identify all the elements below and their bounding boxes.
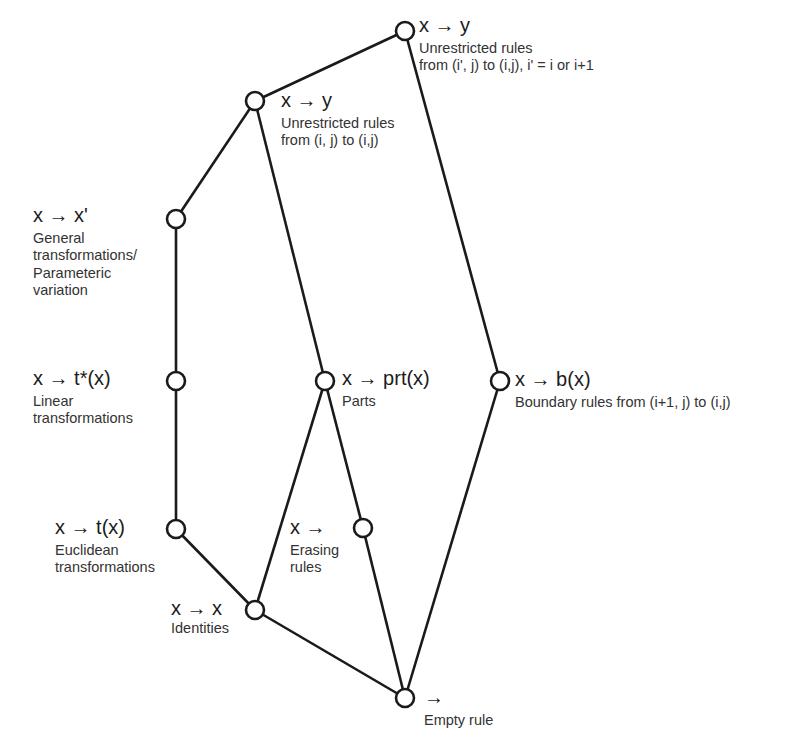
node-general [167, 210, 185, 228]
rule-formula: x → [290, 516, 339, 539]
node-erasing [354, 519, 372, 537]
label-boundary: x → b(x)Boundary rules from (i+1, j) to … [515, 368, 731, 411]
node-empty [396, 689, 414, 707]
rule-formula: x → t*(x) [33, 367, 133, 390]
edge-empty-to-identities [255, 610, 405, 698]
rule-description: from (i', j) to (i,j), i' = i or i+1 [419, 57, 594, 74]
rule-formula: x → t(x) [55, 516, 155, 539]
node-unrestricted [246, 92, 264, 110]
rule-formula: x → y [419, 14, 594, 37]
rule-description: Unrestricted rules [419, 40, 594, 57]
node-identities [246, 601, 264, 619]
label-linear: x → t*(x)Lineartransformations [33, 367, 133, 428]
label-euclidean: x → t(x)Euclideantransformations [55, 516, 155, 577]
rule-formula: x → x' [33, 204, 137, 227]
node-parts [316, 372, 334, 390]
rule-description: Parts [342, 393, 430, 410]
rule-description: General [33, 230, 137, 247]
rule-description: variation [33, 282, 137, 299]
rule-description: Boundary rules from (i+1, j) to (i,j) [515, 394, 731, 411]
label-unrestricted-shift: x → yUnrestricted rulesfrom (i', j) to (… [419, 14, 594, 75]
label-parts: x → prt(x)Parts [342, 367, 430, 410]
label-unrestricted: x → yUnrestricted rulesfrom (i, j) to (i… [281, 89, 395, 150]
rule-description: rules [290, 559, 339, 576]
label-general: x → x'Generaltransformations/Parameteric… [33, 204, 137, 300]
label-erasing: x →Erasingrules [290, 516, 339, 577]
rule-description: transformations [33, 410, 133, 427]
rule-description: Linear [33, 393, 133, 410]
label-identities: x → xIdentities [171, 597, 229, 637]
node-linear [167, 372, 185, 390]
rule-description: Euclidean [55, 542, 155, 559]
rule-description: from (i, j) to (i,j) [281, 132, 395, 149]
rule-description: Erasing [290, 542, 339, 559]
rule-description: Empty rule [424, 712, 493, 729]
edge-general-to-unrestricted [176, 101, 255, 219]
edge-boundary-to-unrestricted-shift [405, 31, 500, 381]
rule-description: transformations/ [33, 247, 137, 264]
rule-formula: x → x [171, 597, 229, 620]
label-empty: →Empty rule [424, 686, 493, 729]
edge-empty-to-erasing [363, 528, 405, 698]
rule-formula: x → b(x) [515, 368, 731, 391]
rule-description: Identities [171, 620, 229, 637]
rule-formula: x → prt(x) [342, 367, 430, 390]
node-euclidean [167, 520, 185, 538]
node-boundary [491, 372, 509, 390]
rule-formula: → [424, 686, 493, 709]
node-unrestricted-shift [396, 22, 414, 40]
edge-empty-to-boundary [405, 381, 500, 698]
rule-formula: x → y [281, 89, 395, 112]
rule-description: Unrestricted rules [281, 115, 395, 132]
rule-description: transformations [55, 559, 155, 576]
rule-description: Parameteric [33, 265, 137, 282]
